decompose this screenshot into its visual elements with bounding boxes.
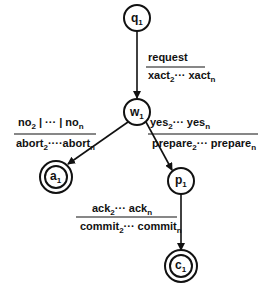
svg-text:no2 | ··· | non: no2 | ··· | non <box>18 116 84 131</box>
svg-text:yes2···yesn: yes2···yesn <box>150 116 210 131</box>
svg-text:abort2····abortn: abort2····abortn <box>16 137 95 152</box>
state-diagram: q1 w1 a1 p1 c1 request xact2···xactn no2… <box>0 0 272 299</box>
edge-label-prepare: yes2···yesn prepare2···preparen <box>148 116 258 152</box>
svg-text:xact2···xactn: xact2···xactn <box>148 69 216 84</box>
svg-text:ack2···ackn: ack2···ackn <box>92 202 152 217</box>
edge-label-abort: no2 | ··· | non abort2····abortn <box>14 116 96 152</box>
svg-text:prepare2···preparen: prepare2···preparen <box>152 137 256 152</box>
state-w1: w1 <box>124 99 150 125</box>
state-c1-final: c1 <box>165 250 197 282</box>
state-p1: p1 <box>168 168 194 194</box>
svg-text:request: request <box>148 51 188 63</box>
state-q1: q1 <box>124 5 150 31</box>
edge-label-commit: ack2···ackn commit2···commitn <box>76 202 182 235</box>
state-a1-final: a1 <box>40 161 72 193</box>
svg-text:commit2···commitn: commit2···commitn <box>80 220 182 235</box>
edge-label-request: request xact2···xactn <box>146 51 216 84</box>
